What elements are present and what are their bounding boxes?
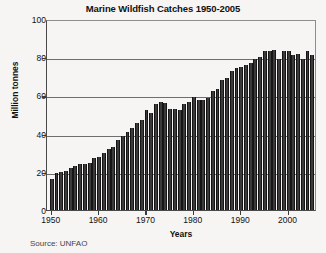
x-tick-label: 1980: [173, 216, 213, 225]
bar: [88, 163, 92, 210]
bar: [73, 166, 77, 210]
bar: [187, 102, 191, 210]
bar: [78, 164, 82, 210]
bar: [244, 65, 248, 210]
bar: [55, 173, 59, 210]
bar: [197, 100, 201, 210]
bar: [216, 89, 220, 210]
bar: [168, 109, 172, 210]
source-note: Source: UNFAO: [30, 239, 87, 248]
bar: [258, 57, 262, 210]
x-tick-label: 2000: [268, 216, 308, 225]
bar: [102, 153, 106, 210]
bar: [282, 51, 286, 210]
x-tick-label: 1960: [78, 216, 118, 225]
bar: [126, 132, 130, 210]
chart-figure: Marine Wildfish Catches 1950-2005 Millio…: [0, 0, 326, 253]
bar: [192, 97, 196, 210]
bar: [225, 78, 229, 210]
bar: [272, 50, 276, 210]
bar: [69, 168, 73, 210]
bar: [178, 110, 182, 210]
bar: [154, 104, 158, 210]
bar: [92, 158, 96, 210]
bar: [220, 80, 224, 210]
bar: [301, 59, 305, 210]
x-tick-label: 1990: [220, 216, 260, 225]
x-axis-title: Years: [46, 229, 316, 239]
bar: [211, 91, 215, 210]
bar: [182, 104, 186, 210]
y-tick-label: 100: [20, 16, 46, 25]
bar: [239, 67, 243, 210]
bar: [268, 51, 272, 210]
bar: [59, 172, 63, 210]
bar-series: [47, 21, 315, 210]
bar: [121, 136, 125, 210]
bar: [135, 123, 139, 210]
bar: [230, 71, 234, 210]
bar: [253, 59, 257, 210]
bar: [206, 98, 210, 210]
bar: [296, 54, 300, 210]
bar: [50, 179, 54, 211]
bar: [263, 51, 267, 210]
bar: [235, 68, 239, 210]
bar: [111, 147, 115, 210]
bar: [83, 164, 87, 210]
bar: [145, 110, 149, 210]
bar: [291, 55, 295, 210]
bar: [249, 63, 253, 210]
bar: [287, 51, 291, 210]
bar: [149, 113, 153, 210]
bar: [64, 171, 68, 210]
bar: [306, 51, 310, 210]
bar: [130, 128, 134, 210]
bar: [140, 120, 144, 210]
bar: [97, 157, 101, 210]
bar: [163, 103, 167, 210]
bar: [201, 100, 205, 210]
y-axis-ticks: 020406080100: [14, 20, 46, 211]
plot-area: [46, 20, 316, 211]
bar: [173, 109, 177, 210]
x-tick-label: 1970: [125, 216, 165, 225]
bar: [310, 55, 314, 210]
bar: [116, 140, 120, 210]
bar: [107, 149, 111, 210]
bar: [277, 59, 281, 210]
chart-title: Marine Wildfish Catches 1950-2005: [0, 3, 326, 14]
bar: [159, 102, 163, 210]
x-tick-label: 1950: [31, 216, 71, 225]
